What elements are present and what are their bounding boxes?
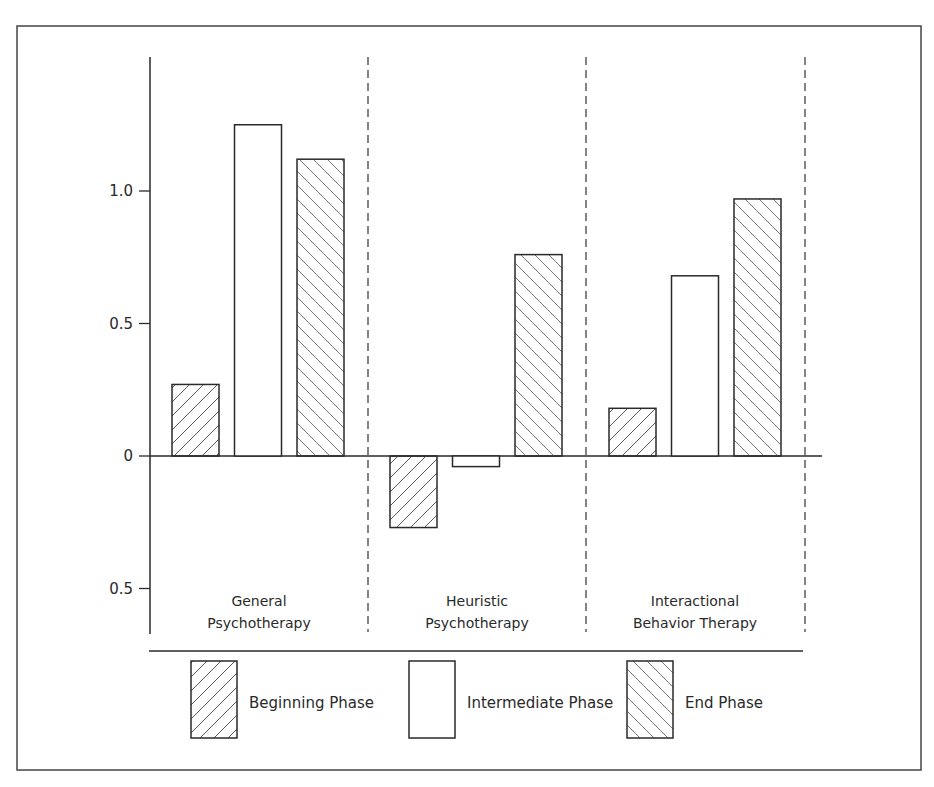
legend-label: End Phase <box>685 694 763 712</box>
legend-swatch-intermediate-phase <box>409 661 455 738</box>
chart-frame <box>17 26 921 770</box>
bar-beginning-phase <box>609 408 656 456</box>
bar-end-phase <box>297 159 344 456</box>
category-labels: GeneralPsychotherapyHeuristicPsychothera… <box>207 593 757 631</box>
y-tick-label: 0.5 <box>109 315 133 333</box>
bar-end-phase <box>734 199 781 456</box>
bar-beginning-phase <box>172 384 219 456</box>
chart: 1.00.500.5 GeneralPsychotherapyHeuristic… <box>0 0 934 787</box>
bar-intermediate-phase <box>235 125 282 456</box>
y-tick-label: 0 <box>123 447 133 465</box>
bar-end-phase <box>515 255 562 456</box>
category-label-line1: Heuristic <box>446 593 508 609</box>
legend-swatch-beginning-phase <box>191 661 237 738</box>
category-label-line2: Behavior Therapy <box>633 615 757 631</box>
bar-intermediate-phase <box>453 456 500 467</box>
y-tick-label: 1.0 <box>109 182 133 200</box>
legend: Beginning PhaseIntermediate PhaseEnd Pha… <box>191 661 763 738</box>
y-tick-label: 0.5 <box>109 580 133 598</box>
bar-intermediate-phase <box>672 276 719 456</box>
category-label-line1: Interactional <box>651 593 739 609</box>
bar-beginning-phase <box>390 456 437 528</box>
bars <box>172 125 781 528</box>
category-label-line2: Psychotherapy <box>425 615 528 631</box>
legend-label: Intermediate Phase <box>467 694 613 712</box>
y-ticks: 1.00.500.5 <box>109 182 150 598</box>
category-label-line1: General <box>231 593 286 609</box>
legend-swatch-end-phase <box>627 661 673 738</box>
category-label-line2: Psychotherapy <box>207 615 310 631</box>
legend-label: Beginning Phase <box>249 694 374 712</box>
